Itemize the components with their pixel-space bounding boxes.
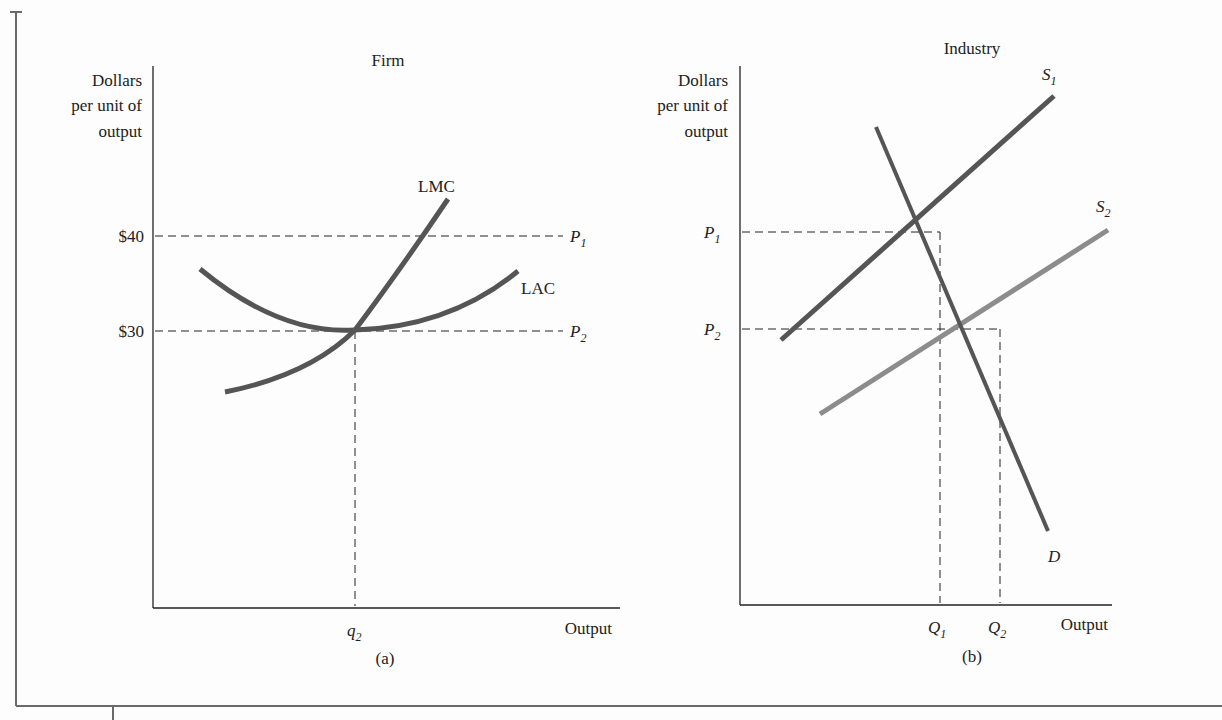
- industry-ylabel-line1: Dollars: [678, 71, 728, 90]
- firm-caption: (a): [376, 649, 395, 668]
- panel-industry: Industry Dollars per unit of output P1 P…: [657, 39, 1112, 666]
- figure: Firm Dollars per unit of output $40 $30 …: [0, 0, 1222, 720]
- industry-caption: (b): [962, 647, 982, 666]
- industry-ylabel-line3: output: [685, 122, 729, 141]
- industry-ylabel-line2: per unit of: [657, 96, 728, 115]
- firm-y-tick-30: $30: [119, 322, 145, 341]
- firm-p1-label: P1: [569, 227, 586, 250]
- industry-p2-label: P2: [703, 320, 720, 343]
- s1-label: S1: [1042, 65, 1057, 88]
- demand-label: D: [1047, 547, 1061, 566]
- firm-dashed-lines: [155, 236, 563, 606]
- firm-title: Firm: [371, 51, 404, 70]
- industry-p1-label: P1: [703, 223, 720, 246]
- industry-dashed-lines: [742, 232, 1000, 603]
- panel-firm: Firm Dollars per unit of output $40 $30 …: [71, 51, 620, 668]
- firm-xlabel: Output: [565, 619, 613, 638]
- firm-axes: [153, 66, 620, 608]
- lmc-label: LMC: [418, 177, 455, 196]
- industry-axes: [740, 66, 1112, 605]
- page-frame: [10, 12, 1222, 720]
- lac-label: LAC: [521, 279, 555, 298]
- firm-ylabel-line3: output: [99, 122, 143, 141]
- industry-x-tick-q1: Q1: [928, 618, 946, 641]
- s1-line: [781, 96, 1054, 340]
- lmc-curve: [225, 199, 448, 392]
- industry-x-tick-q2: Q2: [988, 618, 1006, 641]
- firm-ylabel-line1: Dollars: [92, 71, 142, 90]
- industry-xlabel: Output: [1061, 615, 1109, 634]
- s2-line: [820, 230, 1108, 414]
- firm-y-tick-40: $40: [119, 227, 145, 246]
- firm-x-tick-q2: q2: [347, 621, 362, 644]
- s2-label: S2: [1096, 197, 1111, 220]
- industry-title: Industry: [944, 39, 1001, 58]
- firm-p2-label: P2: [569, 322, 586, 345]
- firm-ylabel-line2: per unit of: [71, 96, 142, 115]
